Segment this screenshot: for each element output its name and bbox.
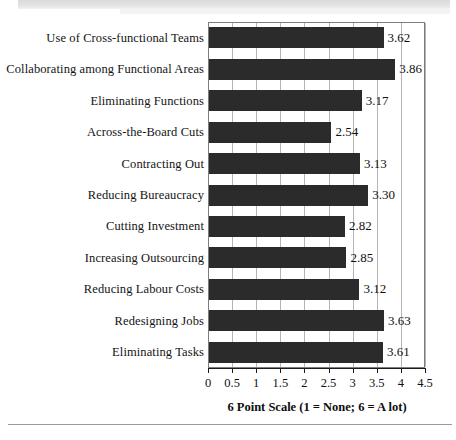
x-axis-tick-mark [401, 368, 402, 373]
bar-row: Redesigning Jobs3.63 [0, 310, 456, 331]
category-label: Across-the-Board Cuts [87, 125, 204, 140]
x-axis-tick-label: 0.5 [224, 376, 240, 391]
bar [209, 59, 395, 80]
x-axis-tick-mark [256, 368, 257, 373]
bar-row: Reducing Bureaucracy3.30 [0, 185, 456, 206]
category-label: Reducing Bureaucracy [88, 188, 204, 203]
bar-row: Collaborating among Functional Areas3.86 [0, 59, 456, 80]
x-axis-tick-mark [304, 368, 305, 373]
bar-row: Reducing Labour Costs3.12 [0, 279, 456, 300]
bar-row: Use of Cross-functional Teams3.62 [0, 27, 456, 48]
bar [209, 310, 384, 331]
bar-value-label: 3.12 [359, 281, 386, 297]
bar [209, 247, 346, 268]
category-label: Increasing Outsourcing [85, 250, 204, 265]
category-label: Reducing Labour Costs [84, 282, 204, 297]
bar-value-label: 2.54 [331, 124, 358, 140]
x-axis-tick-mark [280, 368, 281, 373]
x-axis-tick-label: 1 [253, 376, 259, 391]
x-axis-tick-mark [353, 368, 354, 373]
bar-row: Cutting Investment2.82 [0, 216, 456, 237]
bar-value-label: 2.85 [346, 250, 373, 266]
category-label: Collaborating among Functional Areas [6, 62, 204, 77]
bar-value-label: 3.17 [362, 93, 389, 109]
x-axis-tick-label: 4 [398, 376, 404, 391]
x-axis-tick-mark [232, 368, 233, 373]
x-axis-tick-label: 3 [350, 376, 356, 391]
category-label: Cutting Investment [106, 219, 204, 234]
bar [209, 279, 359, 300]
x-axis-tick-label: 4.5 [417, 376, 433, 391]
category-label: Eliminating Tasks [112, 345, 204, 360]
bar-value-label: 2.82 [345, 218, 372, 234]
bar-row: Eliminating Tasks3.61 [0, 342, 456, 363]
bar [209, 342, 383, 363]
x-axis-tick-label: 2.5 [321, 376, 337, 391]
bar-row: Eliminating Functions3.17 [0, 90, 456, 111]
scan-artifact-bottom-rule [8, 424, 452, 425]
bar-value-label: 3.86 [395, 61, 422, 77]
bar-row: Across-the-Board Cuts2.54 [0, 122, 456, 143]
x-axis-tick-mark [425, 368, 426, 373]
bar-value-label: 3.61 [383, 344, 410, 360]
bar-row: Increasing Outsourcing2.85 [0, 247, 456, 268]
bar-value-label: 3.63 [384, 313, 411, 329]
x-axis-title: 6 Point Scale (1 = None; 6 = A lot) [208, 400, 426, 415]
scan-artifact-top-band [18, 0, 450, 9]
bar-value-label: 3.62 [384, 30, 411, 46]
bar [209, 153, 360, 174]
category-label: Contracting Out [122, 156, 204, 171]
x-axis-tick-mark [377, 368, 378, 373]
bar-value-label: 3.30 [368, 187, 395, 203]
category-label: Eliminating Functions [90, 93, 204, 108]
bar-value-label: 3.13 [360, 156, 387, 172]
bar-rows: Use of Cross-functional Teams3.62Collabo… [0, 22, 456, 368]
bar-row: Contracting Out3.13 [0, 153, 456, 174]
scan-artifact-top-band-secondary [120, 9, 450, 14]
x-axis-tick-label: 2 [301, 376, 307, 391]
x-axis-tick-label: 0 [205, 376, 211, 391]
bar [209, 216, 345, 237]
category-label: Redesigning Jobs [115, 313, 204, 328]
x-axis-line [208, 368, 426, 369]
x-axis-tick-label: 3.5 [369, 376, 385, 391]
bar [209, 185, 368, 206]
category-label: Use of Cross-functional Teams [46, 30, 204, 45]
x-axis-tick-mark [208, 368, 209, 373]
x-axis-tick-mark [329, 368, 330, 373]
bar [209, 122, 331, 143]
x-axis-tick-label: 1.5 [273, 376, 289, 391]
bar [209, 27, 384, 48]
bar [209, 90, 362, 111]
chart-figure: Use of Cross-functional Teams3.62Collabo… [0, 0, 456, 440]
